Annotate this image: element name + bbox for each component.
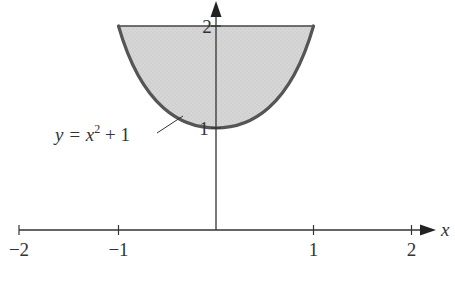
curve-label-rest: + 1 [100,124,130,145]
x-tick-label-2: 2 [407,239,417,260]
x-tick-label-neg1: −1 [108,239,128,260]
annotation-leader-line [157,116,183,133]
x-axis-arrow-icon [420,225,436,236]
curve-label-eq: = x [63,124,94,145]
x-tick-label-1: 1 [309,239,319,260]
y-tick-label-1: 1 [199,118,209,139]
curve-label: y = x2 + 1 [53,122,130,145]
curve-label-y: y [53,124,64,145]
y-tick-label-2: 2 [202,16,212,37]
y-axis-arrow-icon [211,1,222,17]
chart-canvas: −2 −1 1 2 2 1 x y = x2 + 1 [0,0,455,282]
x-axis-label: x [440,219,450,240]
x-tick-label-neg2: −2 [9,239,29,260]
